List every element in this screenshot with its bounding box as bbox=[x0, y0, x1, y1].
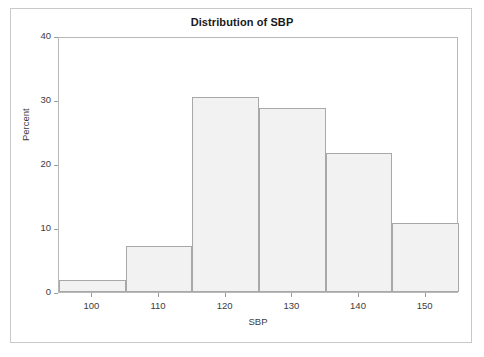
x-axis-tick-label: 150 bbox=[405, 300, 445, 311]
y-axis-tick-label: 40 bbox=[40, 30, 51, 41]
plot-area bbox=[58, 37, 458, 293]
histogram-bar bbox=[59, 280, 126, 292]
y-axis-tick-label: 10 bbox=[40, 222, 51, 233]
histogram-bar bbox=[392, 223, 459, 292]
x-axis-title: SBP bbox=[58, 316, 458, 327]
histogram-bar bbox=[192, 97, 259, 292]
x-axis-tick-label: 140 bbox=[338, 300, 378, 311]
x-axis-tick-mark bbox=[158, 293, 159, 297]
histogram-bar bbox=[259, 108, 326, 292]
x-axis-tick-mark bbox=[225, 293, 226, 297]
x-axis-tick-label: 110 bbox=[138, 300, 178, 311]
histogram-bar bbox=[126, 246, 193, 292]
x-axis-tick-mark bbox=[291, 293, 292, 297]
y-axis-tick-label: 30 bbox=[40, 94, 51, 105]
figure-frame: Distribution of SBP Percent 010203040 10… bbox=[10, 8, 472, 343]
histogram-bar bbox=[326, 153, 393, 292]
chart-title: Distribution of SBP bbox=[11, 16, 473, 28]
x-axis-tick-label: 100 bbox=[71, 300, 111, 311]
x-axis-tick-label: 130 bbox=[271, 300, 311, 311]
x-axis-tick-mark bbox=[91, 293, 92, 297]
y-axis-tick-label: 20 bbox=[40, 158, 51, 169]
x-axis-ticks: 100110120130140150 bbox=[58, 293, 458, 315]
y-axis-tick-label: 0 bbox=[46, 286, 51, 297]
y-axis-ticks: 010203040 bbox=[11, 9, 58, 342]
x-axis-tick-label: 120 bbox=[205, 300, 245, 311]
x-axis-tick-mark bbox=[425, 293, 426, 297]
x-axis-tick-mark bbox=[358, 293, 359, 297]
histogram-bars bbox=[59, 38, 457, 292]
